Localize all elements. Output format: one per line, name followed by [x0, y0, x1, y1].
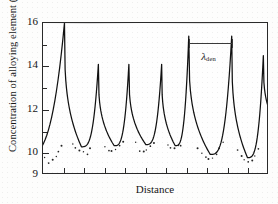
data-point [52, 159, 54, 161]
data-point [72, 143, 73, 144]
data-point [207, 158, 209, 160]
data-point [222, 142, 223, 143]
data-point [197, 147, 199, 149]
curve-clip-region [43, 23, 267, 173]
lambda-den-bar [189, 43, 232, 44]
data-point [178, 145, 179, 146]
data-point [143, 151, 145, 153]
data-point [61, 145, 63, 147]
data-curve-svg [43, 23, 267, 173]
data-point [58, 151, 60, 153]
data-point [74, 147, 76, 149]
data-point [44, 157, 45, 158]
plot-area: λden [42, 22, 268, 174]
data-point [87, 153, 89, 155]
measured-data-points [44, 141, 259, 164]
y-tick-label-10: 10 [22, 146, 38, 157]
data-point [146, 149, 147, 150]
data-point [56, 156, 57, 157]
lambda-den-left-cap [189, 39, 190, 48]
data-point [251, 159, 253, 161]
data-point [243, 159, 244, 160]
data-point [153, 142, 155, 144]
data-point [135, 142, 136, 143]
data-point [167, 144, 168, 145]
data-point [139, 150, 141, 152]
y-tick-label-14: 14 [22, 59, 38, 70]
lambda-subscript: den [206, 55, 216, 62]
data-point [201, 153, 202, 154]
data-point [216, 153, 218, 155]
data-point [205, 156, 207, 158]
data-point [212, 157, 213, 158]
data-point [254, 155, 255, 156]
data-point [108, 150, 110, 152]
data-point [48, 162, 50, 164]
data-point [83, 151, 84, 152]
figure-dendrite-segregation-chart: Concentration of alloying element (wt-%)… [0, 0, 278, 204]
data-point [258, 148, 260, 150]
data-point [247, 161, 249, 163]
data-point [115, 149, 116, 150]
data-point [241, 155, 243, 157]
data-point [180, 145, 182, 147]
lambda-den-label: λden [201, 50, 216, 62]
data-point [89, 147, 91, 149]
y-tick-label-12: 12 [22, 103, 38, 114]
data-point [111, 150, 113, 152]
x-axis-title: Distance [42, 183, 268, 195]
y-axis-title: Concentration of alloying element (wt-%) [7, 0, 21, 152]
data-point [104, 146, 105, 147]
data-point [78, 149, 80, 151]
data-point [170, 147, 172, 149]
y-tick-label-16: 16 [22, 16, 38, 27]
lambda-den-right-cap [232, 39, 233, 48]
y-tick-label-9: 9 [22, 168, 38, 179]
data-point [122, 141, 124, 143]
data-point [218, 147, 220, 149]
data-point [150, 145, 152, 147]
data-point [119, 145, 121, 147]
data-point [174, 147, 176, 149]
solute-profile-curve [43, 23, 267, 158]
data-point [237, 149, 239, 151]
